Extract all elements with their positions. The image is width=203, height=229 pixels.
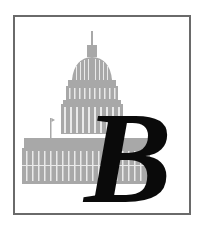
capitol-dome xyxy=(72,57,112,80)
emblem-letter: B xyxy=(84,92,172,224)
flag-icon xyxy=(52,118,56,122)
flagpole xyxy=(50,118,52,138)
capitol-lantern xyxy=(87,45,97,57)
capitol-spire xyxy=(91,31,93,45)
